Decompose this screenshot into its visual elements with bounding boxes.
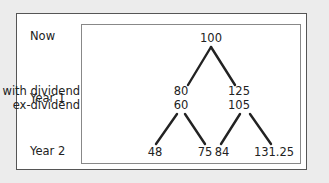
node-year1-up-with-dividend: 125 xyxy=(228,86,250,98)
node-year2-uu: 131.25 xyxy=(254,147,294,159)
node-year1-down-with-dividend: 80 xyxy=(174,86,189,98)
node-year2-dd: 48 xyxy=(148,147,163,159)
node-year1-down-ex-dividend: 60 xyxy=(174,100,189,112)
node-year2-ud: 84 xyxy=(215,147,230,159)
node-year2-du: 75 xyxy=(198,147,213,159)
node-root: 100 xyxy=(200,33,222,45)
node-year1-up-ex-dividend: 105 xyxy=(228,100,250,112)
